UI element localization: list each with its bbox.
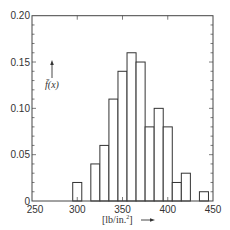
- histogram-bar: [181, 173, 190, 201]
- histogram-bar: [118, 71, 127, 201]
- histogram-bar: [145, 127, 154, 201]
- histogram-bar: [199, 192, 208, 201]
- y-tick-label: 0.05: [11, 149, 31, 160]
- y-tick-label: 0.15: [11, 57, 31, 68]
- x-tick-label: 450: [205, 204, 222, 215]
- x-tick-label: 300: [69, 204, 86, 215]
- histogram-bar: [163, 127, 172, 201]
- histogram-chart: 250300350400450 00.050.100.150.20 f̄(x) …: [0, 0, 230, 230]
- x-axis-label: [lb/in.2]: [102, 214, 155, 225]
- histogram-bar: [127, 53, 136, 201]
- histogram-bars: [73, 53, 209, 201]
- histogram-bar: [154, 108, 163, 201]
- y-axis-label-text: f̄(x): [45, 79, 60, 91]
- x-tick-label: 400: [159, 204, 176, 215]
- y-tick-label: 0.10: [11, 103, 31, 114]
- arrow-head-icon: [50, 60, 54, 65]
- histogram-bar: [136, 62, 145, 201]
- y-tick-label: 0.20: [11, 10, 31, 21]
- histogram-bar: [172, 182, 181, 201]
- y-tick-label: 0: [24, 196, 30, 207]
- histogram-bar: [100, 145, 109, 201]
- y-tick-labels: 00.050.100.150.20: [11, 10, 31, 206]
- histogram-bar: [91, 164, 100, 201]
- y-axis-label: f̄(x): [45, 60, 60, 91]
- x-axis-label-text: [lb/in.2]: [102, 214, 133, 225]
- arrow-head-icon: [150, 218, 155, 221]
- histogram-bar: [109, 99, 118, 201]
